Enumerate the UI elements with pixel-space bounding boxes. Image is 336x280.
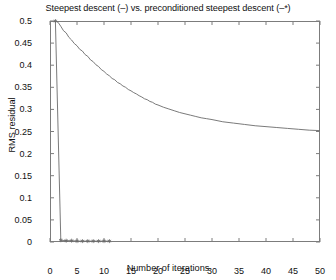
y-tick-label: 0.25 [0, 127, 32, 137]
asterisk-marker [54, 19, 57, 23]
y-tick-label: 0.1 [0, 193, 32, 203]
chart-title: Steepest descent (–) vs. preconditioned … [0, 3, 336, 13]
series-line-1 [55, 21, 109, 241]
y-tick-label: 0 [0, 237, 32, 247]
y-tick-label: 0.05 [0, 215, 32, 225]
y-tick-label: 0.15 [0, 171, 32, 181]
y-tick-label: 0.45 [0, 38, 32, 48]
x-axis-label: Number of iterations [0, 263, 336, 273]
y-tick-label: 0.5 [0, 16, 32, 26]
chart-canvas [50, 21, 320, 242]
series-line-0 [55, 21, 320, 131]
y-tick-label: 0.4 [0, 60, 32, 70]
plot-area: 00.050.10.150.20.250.30.350.40.450.5 051… [50, 21, 320, 242]
y-tick-label: 0.3 [0, 104, 32, 114]
figure-container: Steepest descent (–) vs. preconditioned … [0, 0, 336, 280]
y-tick-label: 0.2 [0, 149, 32, 159]
y-tick-label: 0.35 [0, 82, 32, 92]
